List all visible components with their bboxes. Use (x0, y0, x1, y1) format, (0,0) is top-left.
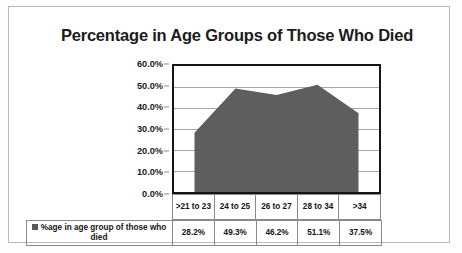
legend-cell: %age in age group of those who died (27, 221, 173, 246)
legend-swatch-icon (32, 224, 38, 230)
y-axis-tick-label: 20.0% (137, 146, 163, 156)
category-cell: 28 to 34 (297, 195, 339, 220)
y-axis: 60.0% 50.0% 40.0% 30.0% 20.0% 10.0% 0.0% (121, 64, 169, 194)
value-cell: 28.2% (173, 221, 215, 246)
category-axis-table: >21 to 23 24 to 25 26 to 27 28 to 34 >34 (172, 194, 381, 220)
y-axis-tick-mark (164, 150, 169, 151)
y-axis-tick-mark (164, 129, 169, 130)
table-row: %age in age group of those who died 28.2… (27, 221, 382, 246)
value-cell: 46.2% (256, 221, 298, 246)
plot-wrapper (172, 64, 381, 194)
y-axis-tick-label: 30.0% (137, 124, 163, 134)
chart-title: Percentage in Age Groups of Those Who Di… (37, 26, 437, 45)
data-table: %age in age group of those who died 28.2… (26, 220, 382, 246)
category-cell: >21 to 23 (173, 195, 215, 220)
y-axis-tick-mark (164, 172, 169, 173)
y-axis-tick-label: 60.0% (137, 59, 163, 69)
legend-label: %age in age group of those who died (41, 223, 167, 242)
chart-outer-frame: Percentage in Age Groups of Those Who Di… (8, 6, 450, 243)
y-axis-tick-mark (164, 64, 169, 65)
y-axis-tick-mark (164, 85, 169, 86)
y-axis-tick-mark (164, 194, 169, 195)
plot-area (172, 64, 381, 194)
y-axis-tick-label: 40.0% (137, 102, 163, 112)
y-axis-tick-mark (164, 107, 169, 108)
area-series (174, 66, 379, 192)
y-axis-tick-label: 0.0% (142, 189, 163, 199)
y-axis-tick-label: 10.0% (137, 167, 163, 177)
page-background: Percentage in Age Groups of Those Who Di… (0, 0, 462, 253)
category-cell: 26 to 27 (256, 195, 298, 220)
category-cell: 24 to 25 (214, 195, 256, 220)
table-row: >21 to 23 24 to 25 26 to 27 28 to 34 >34 (173, 195, 381, 220)
y-axis-tick-label: 50.0% (137, 81, 163, 91)
category-cell: >34 (339, 195, 381, 220)
value-cell: 51.1% (298, 221, 340, 246)
value-cell: 49.3% (214, 221, 256, 246)
value-cell: 37.5% (340, 221, 382, 246)
